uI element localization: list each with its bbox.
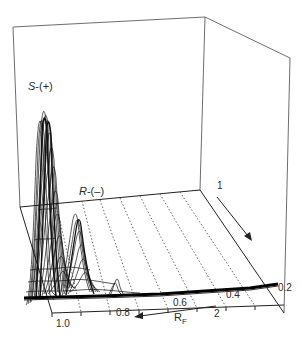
r-peak-label: R-(–) — [79, 185, 104, 197]
tick-label-1-0: 1.0 — [56, 318, 70, 329]
waterfall-chart: S-(+) R-(–) 1.0 0.8 0.6 0.4 0.2 RF 2 1 — [0, 0, 307, 341]
tick-label-0-2: 0.2 — [278, 282, 292, 293]
depth-label-2: 2 — [214, 308, 220, 319]
trace-series — [26, 111, 140, 305]
rf-axis-label: RF — [174, 311, 187, 326]
depth-label-1: 1 — [217, 180, 223, 191]
tick-label-0-8: 0.8 — [116, 307, 130, 318]
arrow-down-right-icon — [244, 232, 252, 241]
s-peak-label: S-(+) — [28, 80, 53, 92]
tick-label-0-4: 0.4 — [226, 289, 240, 300]
tick-label-0-6: 0.6 — [173, 297, 187, 308]
depth-axis-arrow — [217, 197, 252, 241]
